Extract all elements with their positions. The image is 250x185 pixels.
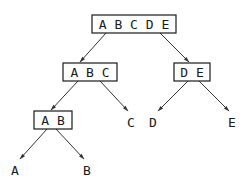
leaf-d: D — [149, 115, 157, 130]
leaf-a: A — [11, 163, 19, 178]
leaf-e: E — [228, 115, 236, 130]
node-abcde-label: A B C D E — [99, 17, 169, 32]
node-de-label: D E — [180, 65, 203, 80]
edge-de-d — [158, 81, 188, 111]
edge-abc-ab — [51, 81, 78, 110]
node-abc-label: A B C — [70, 65, 109, 80]
leaf-c: C — [127, 115, 135, 130]
edge-de-e — [199, 81, 229, 111]
leaf-b: B — [83, 163, 91, 178]
node-ab-label: A B — [41, 113, 65, 128]
tree-diagram: A B C D E A B C D E A B C D E A B — [0, 0, 250, 185]
edge-ab-a — [20, 129, 47, 159]
edge-abcde-de — [160, 33, 189, 62]
node-abcde: A B C D E — [92, 15, 176, 33]
edge-ab-b — [56, 129, 84, 159]
node-ab: A B — [34, 111, 72, 129]
edge-abcde-abc — [80, 33, 106, 62]
node-de: D E — [174, 63, 210, 81]
node-abc: A B C — [63, 63, 117, 81]
edge-abc-c — [100, 81, 128, 111]
